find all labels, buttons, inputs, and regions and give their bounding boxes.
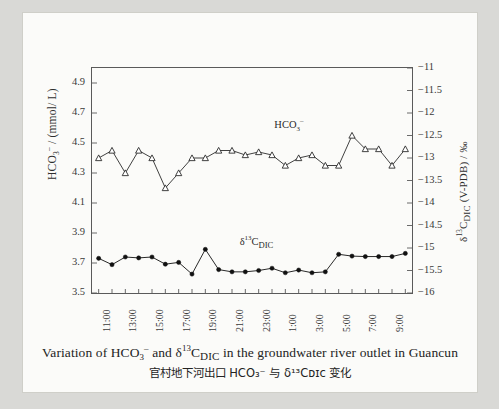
y-axis-right-tick-label: −12.5: [418, 129, 452, 140]
y-axis-left-tick-label: 3.5: [57, 287, 85, 298]
caption-en-text-1: Variation of HCO: [42, 345, 140, 360]
y-axis-right-tick-label: −14.5: [418, 219, 452, 230]
x-axis-tick-label: 9:00: [395, 314, 405, 332]
caption-en-text-2: and: [149, 345, 176, 360]
x-axis-tick-label: 1:00: [288, 314, 298, 332]
x-axis-tick-label: 7:00: [368, 314, 378, 332]
caption-english: Variation of HCO3– and δ13CDIC in the gr…: [22, 342, 478, 364]
x-axis-tick-label: 19:00: [208, 309, 218, 332]
y-axis-right-tick-label: −11.5: [418, 84, 452, 95]
x-axis-tick-label: 17:00: [182, 309, 192, 332]
y-axis-right-tick-label: −12: [418, 107, 452, 118]
x-axis-tick-label: 13:00: [128, 309, 138, 332]
y-axis-left-tick-label: 3.7: [57, 257, 85, 268]
x-axis-tick-label: 5:00: [342, 314, 352, 332]
x-axis-tick-label: 21:00: [235, 309, 245, 332]
y-axis-left-tick-label: 3.9: [57, 227, 85, 238]
figure-page: HCO3– / (mmol/ L) δ13CDIC (V-PDB) / ‰ 4.…: [0, 0, 499, 409]
y-axis-right-title: δ13CDIC (V-PDB) / ‰: [456, 141, 472, 242]
y-axis-left-tick-label: 4.9: [57, 77, 85, 88]
caption-en-sub-2: DIC: [200, 350, 219, 362]
y-axis-left-tick-label: 4.5: [57, 137, 85, 148]
y-axis-left-tick-label: 4.7: [57, 107, 85, 118]
y-axis-right-tick-label: −14: [418, 197, 452, 208]
y-axis-right-tick-label: −13.5: [418, 174, 452, 185]
series-label-hco3: HCO3–: [274, 118, 303, 133]
plot-canvas: [92, 68, 412, 293]
y-axis-right-tick-label: −11: [418, 62, 452, 73]
caption-en-sub-1: 3: [140, 352, 145, 362]
scanned-paper-background: HCO3– / (mmol/ L) δ13CDIC (V-PDB) / ‰ 4.…: [22, 12, 478, 393]
y-axis-right-tick-label: −15.5: [418, 264, 452, 275]
y-axis-right-tick-label: −13: [418, 152, 452, 163]
figure-caption: Variation of HCO3– and δ13CDIC in the gr…: [22, 342, 478, 382]
x-axis-tick-label: 15:00: [155, 309, 165, 332]
caption-en-text-3: in the groundwater river outlet in Guanc…: [219, 345, 458, 360]
chart-figure: HCO3– / (mmol/ L) δ13CDIC (V-PDB) / ‰ 4.…: [22, 12, 478, 393]
caption-en-c: C: [191, 345, 200, 360]
x-axis-tick-label: 3:00: [315, 314, 325, 332]
y-axis-right-tick-label: −16: [418, 287, 452, 298]
y-axis-left-tick-label: 4.3: [57, 167, 85, 178]
series-label-d13c: δ13CDIC: [240, 235, 274, 249]
y-axis-right-tick-label: −15: [418, 242, 452, 253]
y-axis-left-tick-label: 4.1: [57, 197, 85, 208]
caption-en-sup-2: 13: [182, 343, 191, 353]
x-axis-tick-label: 11:00: [102, 310, 112, 332]
plot-area: [91, 67, 413, 294]
x-axis-tick-label: 23:00: [262, 309, 272, 332]
caption-chinese: 官村地下河出口 HCO₃⁻ 与 δ¹³Cᴅɪᴄ 变化: [22, 365, 478, 382]
